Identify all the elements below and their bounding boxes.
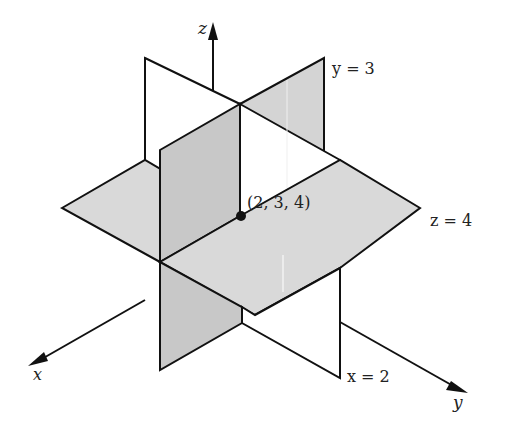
diagram-stage: z x y y = 3 z = 4 x = 2 (2, 3, 4) — [0, 0, 506, 431]
x-axis-line — [40, 300, 145, 360]
point-marker — [236, 211, 246, 221]
x-axis-arrowhead — [28, 352, 48, 366]
z-axis-arrowhead — [208, 22, 218, 40]
plane-label-y3: y = 3 — [331, 59, 375, 78]
plane-label-x2: x = 2 — [347, 367, 390, 386]
plane-label-z4: z = 4 — [430, 211, 472, 230]
point-label: (2, 3, 4) — [247, 193, 310, 212]
z-axis-label: z — [197, 18, 208, 38]
x-axis-label: x — [33, 365, 42, 384]
y-axis-label: y — [452, 392, 463, 412]
planes-diagram: z x y y = 3 z = 4 x = 2 (2, 3, 4) — [0, 0, 506, 431]
